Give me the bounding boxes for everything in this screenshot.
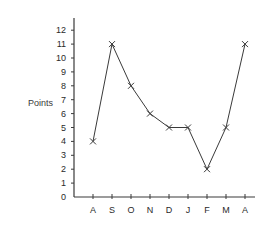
x-tick-label: J bbox=[186, 205, 191, 215]
y-tick-label: 11 bbox=[57, 39, 66, 49]
x-tick-label: N bbox=[147, 205, 154, 215]
y-tick-label: 1 bbox=[61, 178, 66, 188]
x-axis: ASONDJFMA bbox=[74, 194, 255, 215]
x-tick-label: S bbox=[109, 205, 115, 215]
y-tick-label: 10 bbox=[56, 53, 66, 63]
y-tick-label: 8 bbox=[61, 81, 66, 91]
x-tick-label: A bbox=[90, 205, 96, 215]
series-line bbox=[93, 44, 245, 169]
y-tick-label: 0 bbox=[61, 192, 66, 202]
line-chart: 0123456789101112 ASONDJFMA Points bbox=[0, 0, 271, 228]
y-tick-label: 5 bbox=[61, 123, 66, 133]
y-tick-label: 12 bbox=[56, 25, 66, 35]
y-tick-label: 4 bbox=[61, 136, 66, 146]
y-tick-label: 3 bbox=[61, 150, 66, 160]
y-axis-label: Points bbox=[28, 98, 54, 108]
x-tick-label: D bbox=[166, 205, 173, 215]
x-marker-icon bbox=[147, 111, 153, 117]
y-axis: 0123456789101112 bbox=[56, 18, 74, 202]
y-tick-label: 6 bbox=[61, 109, 66, 119]
x-tick-label: O bbox=[127, 205, 134, 215]
data-series bbox=[90, 41, 248, 172]
x-tick-label: A bbox=[242, 205, 248, 215]
y-tick-label: 2 bbox=[61, 164, 66, 174]
x-tick-label: F bbox=[204, 205, 210, 215]
x-tick-label: M bbox=[222, 205, 230, 215]
x-marker-icon bbox=[204, 166, 210, 172]
y-tick-label: 7 bbox=[61, 95, 66, 105]
x-marker-icon bbox=[128, 83, 134, 89]
y-tick-label: 9 bbox=[61, 67, 66, 77]
